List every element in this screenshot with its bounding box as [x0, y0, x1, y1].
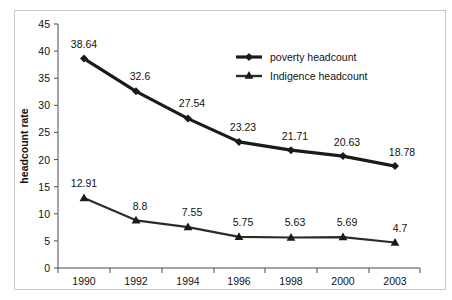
data-label-indigence: 8.8: [133, 200, 148, 212]
x-tick-label: 1996: [227, 275, 251, 287]
x-tick-label: 1992: [124, 275, 148, 287]
y-tick-label: 20: [38, 154, 50, 166]
data-label-indigence: 5.69: [337, 216, 358, 228]
y-tick-label: 15: [38, 181, 50, 193]
chart-legend: poverty headcount Indigence headcount: [236, 51, 368, 82]
data-label-poverty: 32.6: [130, 70, 151, 82]
x-tick-label: 2003: [383, 275, 407, 287]
legend-marker-diamond-icon: [245, 53, 253, 61]
y-tick-label: 40: [38, 45, 50, 57]
data-label-indigence: 7.55: [182, 206, 203, 218]
x-axis-ticks: [58, 268, 420, 273]
x-tick-label: 2000: [331, 275, 355, 287]
legend-label-indigence: Indigence headcount: [270, 70, 368, 82]
line-chart: 45 40 35 30 25 20 15 10 5 0 headcount ra…: [0, 0, 452, 300]
y-tick-label: 45: [38, 18, 50, 30]
x-tick-label: 1994: [176, 275, 200, 287]
data-label-indigence: 12.91: [71, 177, 97, 189]
data-label-poverty: 20.63: [334, 136, 360, 148]
data-label-indigence: 5.63: [285, 216, 306, 228]
y-tick-label: 35: [38, 72, 50, 84]
y-tick-label: 10: [38, 208, 50, 220]
data-label-poverty: 27.54: [179, 97, 205, 109]
data-label-poverty: 23.23: [230, 121, 256, 133]
data-label-indigence: 5.75: [233, 216, 254, 228]
y-tick-label: 0: [44, 262, 50, 274]
data-label-poverty: 18.78: [389, 146, 415, 158]
data-label-poverty: 21.71: [282, 130, 308, 142]
legend-item-indigence[interactable]: Indigence headcount: [236, 70, 368, 82]
data-label-poverty: 38.64: [71, 38, 97, 50]
data-label-indigence: 4.7: [393, 222, 408, 234]
chart-figure: 45 40 35 30 25 20 15 10 5 0 headcount ra…: [0, 0, 452, 300]
y-tick-label: 25: [38, 126, 50, 138]
y-axis-ticks: [54, 24, 58, 268]
legend-item-poverty[interactable]: poverty headcount: [236, 51, 356, 63]
y-tick-label: 30: [38, 99, 50, 111]
x-tick-label: 1998: [279, 275, 303, 287]
y-axis-title: headcount rate: [18, 108, 30, 183]
x-tick-label: 1990: [72, 275, 96, 287]
y-tick-label: 5: [44, 235, 50, 247]
legend-label-poverty: poverty headcount: [270, 51, 356, 63]
